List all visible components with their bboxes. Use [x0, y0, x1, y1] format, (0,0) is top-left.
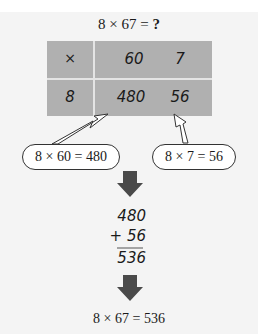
- pointer-arrow-tens: [52, 114, 108, 144]
- addend-2: + 56: [104, 227, 146, 245]
- callout-ones-product: 8 × 7 = 56: [152, 144, 236, 170]
- final-result: 8 × 67 = 536: [0, 311, 258, 327]
- callout-tens-product: 8 × 60 = 480: [22, 144, 120, 170]
- down-arrow-2: [117, 275, 143, 301]
- addend-1: 480: [106, 207, 146, 225]
- sum-total: 536: [106, 249, 146, 267]
- down-arrow-1: [117, 171, 143, 197]
- pointer-arrow-ones: [174, 114, 188, 143]
